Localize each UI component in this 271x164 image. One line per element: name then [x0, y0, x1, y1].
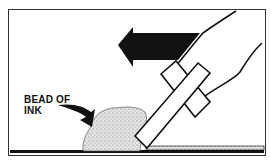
label-line-1: BEAD OF: [24, 94, 70, 105]
bead-of-ink-label: BEAD OF INK: [24, 94, 70, 116]
diagram-canvas: BEAD OF INK: [0, 0, 271, 164]
label-line-2: INK: [24, 105, 70, 116]
squeegee-diagram: [0, 0, 271, 164]
direction-arrow-icon: [118, 27, 200, 67]
ink-layer: [146, 146, 264, 150]
